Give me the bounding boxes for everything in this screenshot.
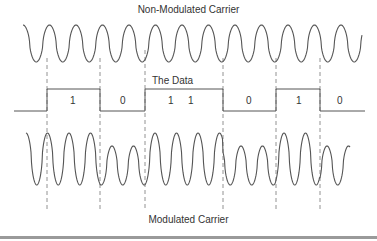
bit-value: 0 [337,95,343,106]
bit-boundary-lines [47,50,320,210]
bit-value: 1 [188,95,194,106]
bit-value: 0 [120,95,126,106]
bit-value: 1 [70,95,76,106]
bit-value: 1 [168,95,174,106]
modulated-carrier-wave [26,133,350,185]
bit-value: 0 [246,95,252,106]
bit-value: 1 [296,95,302,106]
footer-divider [0,236,377,239]
non-modulated-carrier-wave [23,25,362,62]
modulation-diagram [0,0,377,241]
